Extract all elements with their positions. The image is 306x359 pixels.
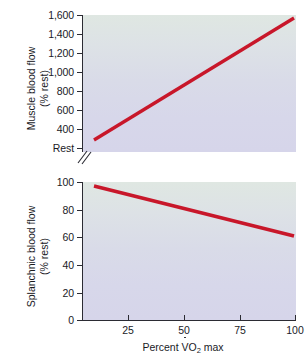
x-axis-title-prefix: Percent	[142, 341, 181, 353]
x-label-25: 25	[108, 324, 148, 336]
chart-splanchnic-blood-flow: 100 80 60 40 20 0 25 50 75 100 Splanchni…	[0, 172, 306, 359]
figure-blood-flow-charts: 1,600 1,400 1,200 1,000 800 600 400 Rest…	[0, 0, 306, 359]
y-tick-muscle-1200	[77, 53, 82, 54]
y-tick-splanchnic-80	[77, 210, 82, 211]
y-axis-title-splanchnic-line2: (% rest)	[37, 238, 49, 275]
vdot-symbol: V	[181, 341, 188, 353]
x-label-100: 100	[275, 324, 306, 336]
y-tick-muscle-600	[77, 110, 82, 111]
y-axis-title-muscle-line2: (% rest)	[37, 70, 49, 107]
y-tick-muscle-400	[77, 129, 82, 130]
y-tick-splanchnic-40	[77, 265, 82, 266]
y-tick-muscle-800	[77, 91, 82, 92]
x-axis-title-suffix: max	[201, 341, 224, 353]
y-tick-muscle-1400	[77, 34, 82, 35]
y-axis-title-splanchnic: Splanchnic blood flow (% rest)	[25, 182, 50, 332]
x-axis-title-sub: 2	[197, 346, 201, 355]
x-axis-title-o: O	[189, 341, 197, 353]
y-tick-splanchnic-100	[77, 182, 82, 183]
y-tick-splanchnic-20	[77, 293, 82, 294]
y-axis-title-muscle: Muscle blood flow (% rest)	[25, 19, 50, 159]
y-tick-muscle-1600	[77, 15, 82, 16]
x-axis-title: Percent VO2 max	[0, 341, 306, 353]
y-tick-splanchnic-0	[77, 320, 82, 321]
y-tick-muscle-1000	[77, 72, 82, 73]
y-axis-title-splanchnic-line1: Splanchnic blood flow	[25, 206, 37, 308]
chart-muscle-blood-flow: 1,600 1,400 1,200 1,000 800 600 400 Rest…	[0, 0, 306, 172]
x-label-50: 50	[164, 324, 204, 336]
v-dot-icon	[184, 337, 186, 339]
y-tick-splanchnic-60	[77, 237, 82, 238]
x-axis-title-v: V	[181, 341, 188, 353]
x-axis-splanchnic	[82, 320, 296, 321]
x-label-75: 75	[220, 324, 260, 336]
y-axis-title-muscle-line1: Muscle blood flow	[25, 47, 37, 130]
data-line-muscle	[83, 15, 296, 152]
data-line-splanchnic	[83, 182, 296, 320]
